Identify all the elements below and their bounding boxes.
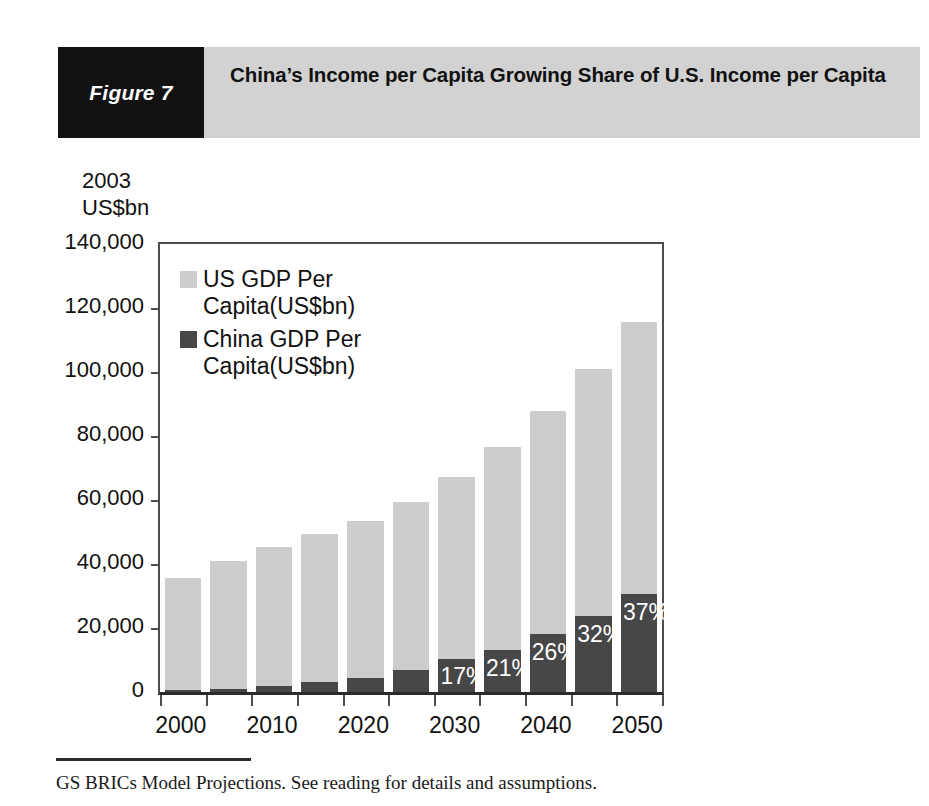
x-axis-tick-label: 2000 bbox=[155, 712, 206, 739]
y-axis-tick-label: 120,000 bbox=[64, 293, 144, 319]
bar-percent-label: 32% bbox=[577, 623, 623, 646]
bar-column: 32% bbox=[575, 369, 612, 692]
y-axis-tick-label: 140,000 bbox=[64, 229, 144, 255]
bar-segment-us bbox=[165, 578, 202, 692]
x-axis-tick bbox=[160, 695, 162, 706]
bar-percent-label: 26% bbox=[532, 641, 578, 664]
bar-percent-label: 21% bbox=[486, 657, 532, 680]
legend-swatch-china bbox=[180, 331, 197, 348]
figure-number-label: Figure 7 bbox=[89, 81, 172, 105]
legend-label-china: China GDP Per Capita(US$bn) bbox=[203, 326, 418, 380]
x-axis-tick bbox=[571, 695, 573, 706]
bar-column: 37% bbox=[621, 322, 658, 692]
bar-percent-label: 37% bbox=[623, 601, 669, 624]
x-axis-tick-label: 2020 bbox=[338, 712, 389, 739]
chart: 2003US$bn 020,00040,00060,00080,000100,0… bbox=[0, 150, 929, 750]
bar-segment-us bbox=[347, 521, 384, 692]
y-axis-tick bbox=[151, 436, 160, 438]
y-axis-tick bbox=[151, 500, 160, 502]
bar-segment-us bbox=[393, 502, 430, 692]
plot-area: 17%21%26%32%37% US GDP Per Capita(US$bn)… bbox=[158, 242, 664, 695]
bar-column bbox=[256, 547, 293, 692]
legend-item: US GDP Per Capita(US$bn) bbox=[180, 266, 418, 320]
y-axis-tick bbox=[151, 308, 160, 310]
bar-segment-us bbox=[210, 561, 247, 692]
x-axis-tick-labels: 200020102020203020402050 bbox=[158, 712, 664, 752]
bar-segment-us bbox=[301, 534, 338, 692]
footnote-rule bbox=[56, 758, 251, 761]
y-axis-tick-labels: 020,00040,00060,00080,000100,000120,0001… bbox=[0, 242, 158, 692]
bar-percent-label: 17% bbox=[440, 665, 486, 688]
bar-segment-china bbox=[347, 678, 384, 692]
legend-label-us: US GDP Per Capita(US$bn) bbox=[203, 266, 418, 320]
legend-swatch-us bbox=[180, 271, 197, 288]
x-axis-tick bbox=[343, 695, 345, 706]
bar-column: 26% bbox=[530, 411, 567, 692]
x-axis-tick bbox=[251, 695, 253, 706]
y-axis-tick bbox=[151, 372, 160, 374]
figure-title-container: China’s Income per Capita Growing Share … bbox=[204, 47, 920, 138]
x-axis-tick-label: 2050 bbox=[612, 712, 663, 739]
bar-segment-china bbox=[210, 689, 247, 692]
footnote-text: GS BRICs Model Projections. See reading … bbox=[56, 772, 597, 794]
figure-title: China’s Income per Capita Growing Share … bbox=[230, 61, 886, 88]
y-axis-tick-label: 100,000 bbox=[64, 357, 144, 383]
chart-legend: US GDP Per Capita(US$bn) China GDP Per C… bbox=[180, 266, 418, 380]
bar-column bbox=[393, 502, 430, 692]
x-axis-tick bbox=[206, 695, 208, 706]
bar-segment-china bbox=[256, 686, 293, 692]
y-axis-tick-label: 80,000 bbox=[77, 421, 144, 447]
x-axis-tick bbox=[662, 695, 664, 706]
x-axis-tick bbox=[616, 695, 618, 706]
x-axis-tick-label: 2010 bbox=[246, 712, 297, 739]
bar-column bbox=[165, 578, 202, 692]
y-axis-tick-label: 60,000 bbox=[77, 485, 144, 511]
bar-segment-china bbox=[165, 690, 202, 692]
y-axis-tick bbox=[151, 628, 160, 630]
bar-segment-china bbox=[393, 670, 430, 692]
y-axis-tick-label: 40,000 bbox=[77, 549, 144, 575]
x-axis-tick bbox=[525, 695, 527, 706]
x-axis-tick bbox=[479, 695, 481, 706]
figure-header: Figure 7 China’s Income per Capita Growi… bbox=[58, 47, 920, 138]
bar-segment-china bbox=[301, 682, 338, 692]
figure-number-badge: Figure 7 bbox=[58, 47, 204, 138]
bar-column bbox=[210, 561, 247, 692]
y-axis-tick-label: 0 bbox=[132, 677, 144, 703]
bar-column bbox=[347, 521, 384, 692]
x-axis-tick bbox=[434, 695, 436, 706]
x-axis-tick bbox=[388, 695, 390, 706]
x-axis-tick-label: 2030 bbox=[429, 712, 480, 739]
bar-segment-us bbox=[256, 547, 293, 692]
bar-column bbox=[301, 534, 338, 692]
y-axis-tick-label: 20,000 bbox=[77, 613, 144, 639]
x-axis-tick bbox=[297, 695, 299, 706]
x-axis-tick-label: 2040 bbox=[520, 712, 571, 739]
bar-column: 21% bbox=[484, 447, 521, 692]
y-axis-unit-label: 2003US$bn bbox=[82, 167, 149, 221]
y-axis-tick bbox=[151, 564, 160, 566]
legend-item: China GDP Per Capita(US$bn) bbox=[180, 326, 418, 380]
bar-column: 17% bbox=[438, 477, 475, 692]
